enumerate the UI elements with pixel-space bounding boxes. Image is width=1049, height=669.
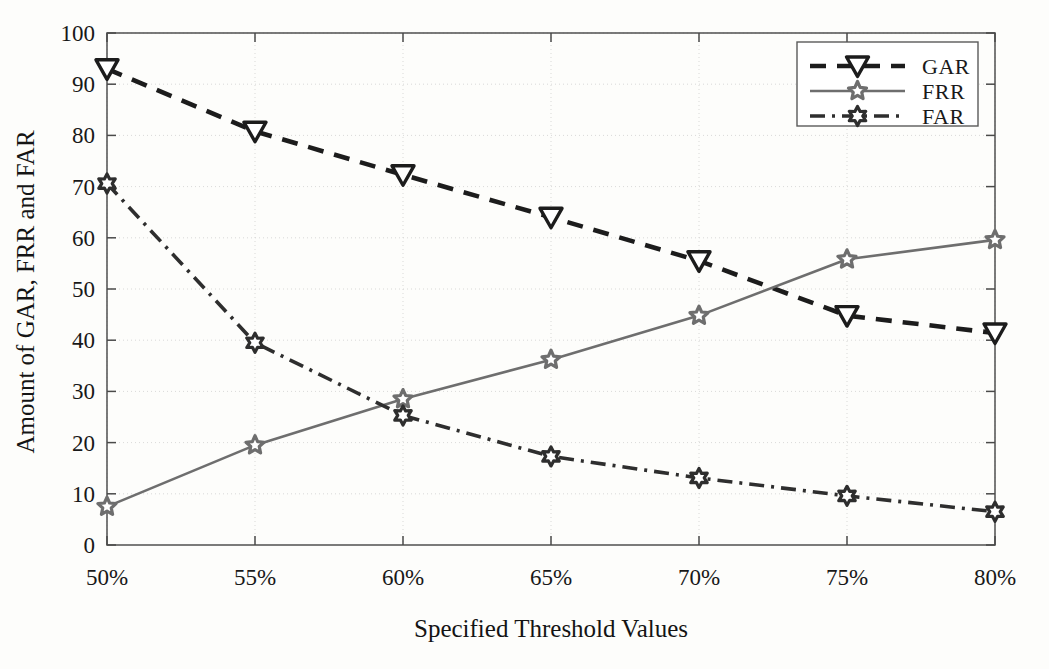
marker-pentagram — [690, 306, 708, 323]
line-chart: 0102030405060708090100 50%55%60%65%70%75… — [0, 0, 1049, 669]
y-tick-label: 30 — [72, 379, 95, 404]
marker-hexagram — [543, 447, 559, 466]
x-tick-labels: 50%55%60%65%70%75%80% — [86, 565, 1016, 590]
y-tick-label: 50 — [72, 277, 95, 302]
y-tick-label: 70 — [72, 175, 95, 200]
marker-hexagram — [987, 502, 1003, 521]
marker-triangle-down — [540, 208, 562, 227]
x-tick-label: 75% — [826, 565, 868, 590]
y-axis-title: Amount of GAR, FRR and FAR — [12, 130, 39, 454]
marker-hexagram — [691, 468, 707, 487]
marker-triangle-down — [392, 166, 414, 185]
marker-hexagram — [247, 333, 263, 352]
y-tick-label: 0 — [84, 533, 96, 558]
y-tick-label: 80 — [72, 123, 95, 148]
y-tick-labels: 0102030405060708090100 — [61, 21, 96, 558]
y-tick-label: 40 — [72, 328, 95, 353]
x-tick-label: 60% — [382, 565, 424, 590]
marker-pentagram — [394, 390, 412, 407]
figure-canvas: 0102030405060708090100 50%55%60%65%70%75… — [0, 0, 1049, 669]
y-tick-label: 100 — [61, 21, 96, 46]
x-tick-label: 50% — [86, 565, 128, 590]
marker-hexagram — [395, 406, 411, 425]
x-tick-label: 65% — [530, 565, 572, 590]
x-tick-label: 55% — [234, 565, 276, 590]
marker-pentagram — [838, 250, 856, 267]
marker-pentagram — [246, 436, 264, 453]
marker-pentagram — [542, 350, 560, 367]
x-tick-label: 80% — [974, 565, 1016, 590]
y-tick-label: 60 — [72, 226, 95, 251]
marker-hexagram — [839, 486, 855, 505]
marker-pentagram — [98, 497, 116, 514]
y-tick-label: 10 — [72, 482, 95, 507]
series-frr — [98, 230, 1004, 514]
marker-pentagram — [986, 230, 1004, 247]
y-tick-label: 90 — [72, 72, 95, 97]
x-axis-title: Specified Threshold Values — [414, 615, 688, 642]
legend-label-far: FAR — [922, 104, 965, 129]
x-tick-label: 70% — [678, 565, 720, 590]
legend-label-frr: FRR — [922, 79, 965, 104]
marker-triangle-down — [96, 60, 118, 79]
legend[interactable]: GARFRRFAR — [797, 42, 978, 129]
legend-label-gar: GAR — [922, 54, 970, 79]
y-tick-label: 20 — [72, 431, 95, 456]
